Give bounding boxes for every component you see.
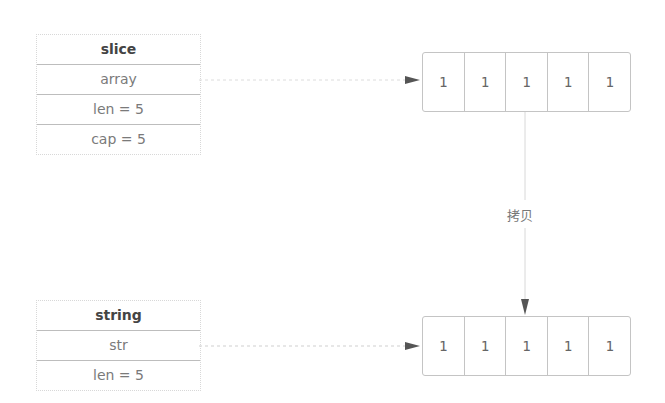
array-cell: 1 — [423, 317, 464, 375]
array-cell: 1 — [423, 53, 464, 111]
string-field-str: str — [37, 330, 200, 360]
slice-title: slice — [37, 35, 200, 64]
slice-field-array: array — [37, 64, 200, 94]
arrow-down-icon — [521, 299, 529, 315]
array-cell: 1 — [505, 317, 547, 375]
array-cell: 1 — [588, 317, 630, 375]
slice-backing-array: 1 1 1 1 1 — [422, 52, 631, 112]
string-title: string — [37, 301, 200, 330]
array-cell: 1 — [588, 53, 630, 111]
arrow-head-icon — [405, 76, 420, 84]
array-cell: 1 — [505, 53, 547, 111]
array-cell: 1 — [547, 53, 589, 111]
string-backing-array: 1 1 1 1 1 — [422, 316, 631, 376]
slice-field-cap: cap = 5 — [37, 124, 200, 154]
string-field-len: len = 5 — [37, 360, 200, 390]
slice-field-len: len = 5 — [37, 94, 200, 124]
array-cell: 1 — [464, 317, 506, 375]
arrow-head-icon — [405, 342, 420, 350]
slice-struct: slice array len = 5 cap = 5 — [36, 34, 201, 155]
copy-label: 拷贝 — [507, 205, 533, 224]
string-struct: string str len = 5 — [36, 300, 201, 391]
array-cell: 1 — [547, 317, 589, 375]
array-cell: 1 — [464, 53, 506, 111]
